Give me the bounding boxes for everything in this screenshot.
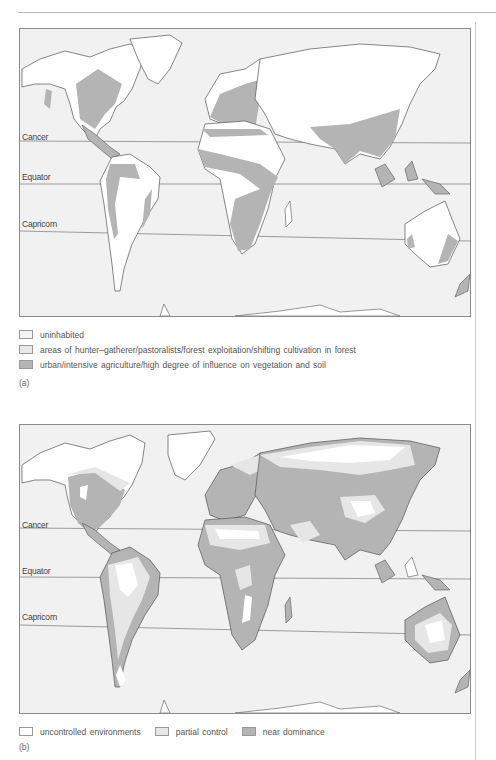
swatch-light xyxy=(155,727,169,736)
world-map-a: Cancer Equator Capricorn xyxy=(19,28,471,317)
legend-item-uncontrolled: uncontrolled environments xyxy=(19,727,141,737)
legend-label: uncontrolled environments xyxy=(40,727,141,737)
equator-label: Equator xyxy=(22,172,50,182)
swatch-dark xyxy=(242,727,256,736)
legend-item-uninhabited: uninhabited xyxy=(19,328,356,341)
equator-label: Equator xyxy=(22,566,50,576)
cancer-label: Cancer xyxy=(22,132,48,142)
figure-label-a: (a) xyxy=(19,378,29,388)
legend-b: uncontrolled environments partial contro… xyxy=(19,725,339,738)
header-rule xyxy=(18,12,496,13)
legend-label: areas of hunter–gatherer/pastoralists/fo… xyxy=(40,345,356,355)
legend-a: uninhabited areas of hunter–gatherer/pas… xyxy=(19,328,356,373)
swatch-uninhabited xyxy=(19,330,33,339)
capricorn-label: Capricorn xyxy=(22,612,57,622)
legend-item-near-dominance: near dominance xyxy=(242,727,325,737)
legend-item-urban: urban/intensive agriculture/high degree … xyxy=(19,358,356,371)
swatch-dark xyxy=(19,360,33,369)
swatch-light xyxy=(19,345,33,354)
legend-label: near dominance xyxy=(263,727,325,737)
world-map-a-svg xyxy=(20,29,470,316)
legend-item-hunter-gatherer: areas of hunter–gatherer/pastoralists/fo… xyxy=(19,343,356,356)
world-map-b: Cancer Equator Capricorn xyxy=(19,424,471,714)
legend-item-partial-control: partial control xyxy=(155,727,228,737)
capricorn-label: Capricorn xyxy=(22,219,57,229)
legend-label: uninhabited xyxy=(40,330,84,340)
legend-label: urban/intensive agriculture/high degree … xyxy=(40,360,326,370)
world-map-b-svg xyxy=(20,425,470,713)
cancer-label: Cancer xyxy=(22,520,48,530)
legend-label: partial control xyxy=(176,727,228,737)
page-divider xyxy=(475,22,476,760)
figure-label-b: (b) xyxy=(19,742,29,752)
swatch-white xyxy=(19,727,33,736)
